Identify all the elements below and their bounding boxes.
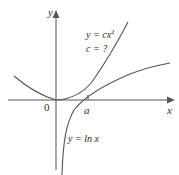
y-axis <box>53 10 60 170</box>
x-axis-arrow-icon <box>167 97 175 104</box>
x-axis <box>8 97 175 104</box>
parabola-exponent: 2 <box>111 28 115 36</box>
y-axis-arrow-icon <box>53 10 60 18</box>
y-axis-label: y <box>48 6 53 18</box>
parabola-equation-label: y = cx2 <box>86 28 115 40</box>
origin-label: 0 <box>44 101 50 113</box>
x-axis-label: x <box>167 104 172 116</box>
figure-canvas <box>0 0 179 175</box>
math-figure: y x 0 a y = cx2 c = ? y = ln x <box>0 0 179 175</box>
tick-label-a: a <box>84 104 90 116</box>
logarithm-equation-label: y = ln x <box>68 133 99 144</box>
parabola-unknown-label: c = ? <box>86 43 107 54</box>
parabola-equation-text: y = cx <box>86 29 111 40</box>
logarithm-curve <box>62 63 170 175</box>
